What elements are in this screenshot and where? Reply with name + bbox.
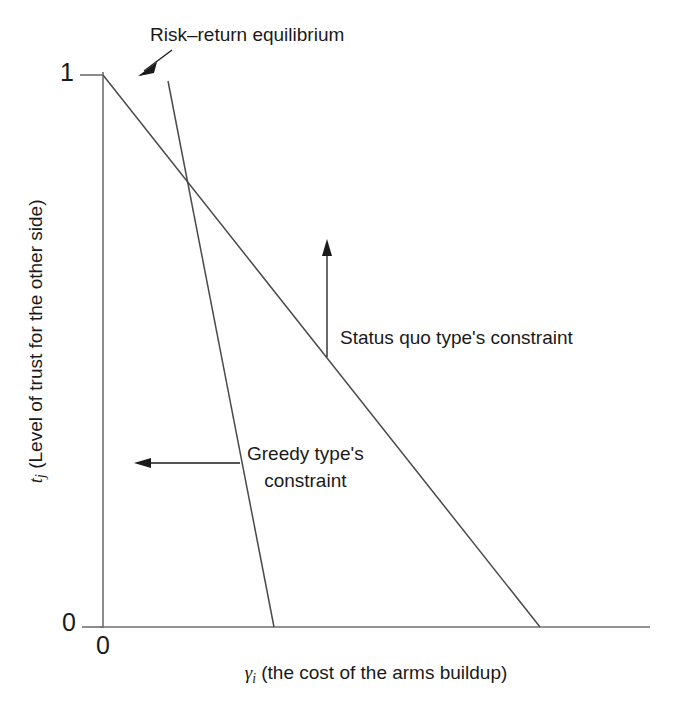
chart-canvas [0,0,673,715]
y-tick-label-0: 0 [62,608,76,638]
annotation-greedy-line2: constraint [247,468,364,495]
y-axis-label-text: (Level of trust for the other side) [25,200,46,475]
greedy-constraint-line [168,81,274,627]
annotation-greedy-line1: Greedy type's [247,441,364,468]
status-quo-constraint-line [103,75,540,627]
greedy-arrow [134,458,240,468]
annotation-status-quo-constraint: Status quo type's constraint [340,327,573,349]
y-axis-label: tj (Level of trust for the other side) [25,121,50,561]
x-axis-label-text: (the cost of the arms buildup) [256,662,507,683]
chart-figure: 1 0 0 tj (Level of trust for the other s… [0,0,673,715]
y-axis-symbol: t [25,478,46,483]
risk-return-arrow [138,50,172,76]
x-tick-label-0: 0 [96,631,110,661]
annotation-greedy-constraint: Greedy type's constraint [247,441,364,494]
y-axis-subscript: j [33,474,48,478]
annotation-risk-return-equilibrium: Risk–return equilibrium [150,24,344,46]
status-quo-arrow [322,239,332,357]
y-tick-label-1: 1 [60,58,74,88]
x-axis-label: γi (the cost of the arms buildup) [176,662,576,687]
